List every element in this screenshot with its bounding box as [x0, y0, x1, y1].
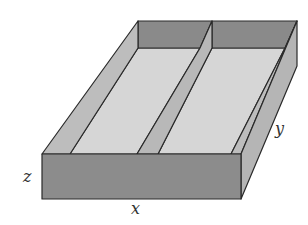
label-y: y: [274, 119, 285, 138]
front-face: [42, 154, 241, 199]
label-x: x: [131, 199, 140, 218]
box-diagram: z x y: [0, 0, 308, 225]
label-z: z: [22, 167, 32, 186]
back-wall-right: [212, 21, 297, 48]
back-wall-left: [138, 21, 212, 48]
